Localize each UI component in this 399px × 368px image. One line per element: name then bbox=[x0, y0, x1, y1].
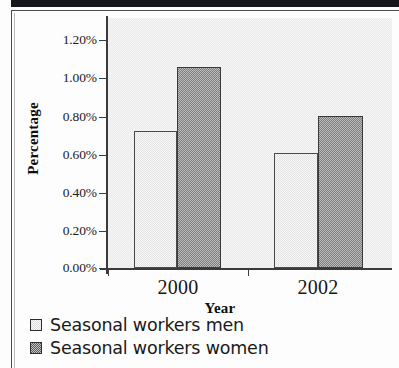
y-axis-tick bbox=[99, 40, 107, 41]
x-axis-category-2000: 2000 bbox=[118, 276, 238, 299]
y-axis-tick bbox=[99, 117, 107, 118]
y-axis-label: 0.80% bbox=[37, 109, 97, 125]
y-axis-label: 0.60% bbox=[37, 147, 97, 163]
bar-2000-seasonal-workers-women[interactable] bbox=[177, 67, 221, 268]
chart-legend: Seasonal workers men Seasonal workers wo… bbox=[30, 313, 269, 359]
bar-2000-seasonal-workers-men[interactable] bbox=[134, 131, 177, 268]
bar-2002-seasonal-workers-men[interactable] bbox=[274, 153, 318, 268]
y-axis-label: 0.40% bbox=[37, 185, 97, 201]
legend-item-women[interactable]: Seasonal workers women bbox=[30, 336, 269, 359]
legend-label-men: Seasonal workers men bbox=[50, 315, 244, 335]
x-axis-tick bbox=[108, 269, 109, 276]
x-axis-category-2002: 2002 bbox=[258, 276, 378, 299]
legend-label-women: Seasonal workers women bbox=[50, 338, 269, 358]
y-axis-tick bbox=[99, 193, 107, 194]
dark-square-icon bbox=[30, 342, 42, 354]
light-square-icon bbox=[30, 319, 42, 331]
y-axis-tick bbox=[99, 231, 107, 232]
y-axis-label: 0.20% bbox=[37, 223, 97, 239]
y-axis-tick bbox=[99, 268, 107, 269]
y-axis-label: 1.20% bbox=[37, 32, 97, 48]
bar-chart: 1.20% 1.00% 0.80% 0.60% 0.40% 0.20% 0.00… bbox=[0, 0, 399, 368]
y-axis-tick bbox=[99, 155, 107, 156]
y-axis-title: Percentage bbox=[25, 79, 42, 199]
scanned-page: 1.20% 1.00% 0.80% 0.60% 0.40% 0.20% 0.00… bbox=[0, 0, 399, 368]
x-axis-tick bbox=[248, 269, 249, 276]
x-axis-line bbox=[100, 268, 392, 270]
bar-2002-seasonal-workers-women[interactable] bbox=[318, 116, 363, 268]
y-axis-tick bbox=[99, 78, 107, 79]
y-axis-label: 0.00% bbox=[37, 260, 97, 276]
y-axis-line bbox=[106, 16, 108, 274]
y-axis-label: 1.00% bbox=[37, 70, 97, 86]
legend-item-men[interactable]: Seasonal workers men bbox=[30, 313, 269, 336]
